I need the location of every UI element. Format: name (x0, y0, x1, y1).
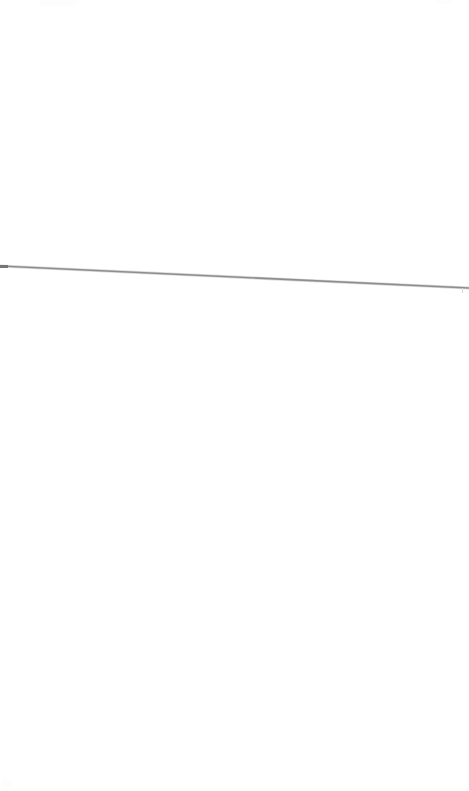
empty-region-below-rule (0, 290, 469, 791)
page-canvas (0, 0, 469, 791)
horizontal-rule (0, 266, 469, 288)
horizontal-rule-left-cap (0, 265, 8, 268)
